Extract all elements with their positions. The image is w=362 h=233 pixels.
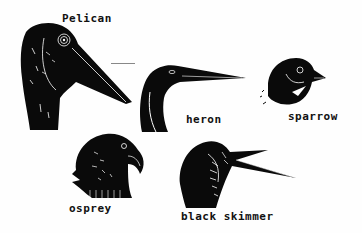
sparrow-label: sparrow	[288, 111, 338, 122]
osprey-label: osprey	[69, 203, 112, 214]
heron-label: heron	[186, 114, 222, 125]
sparrow-illustration	[262, 56, 332, 108]
linocut-bird-heads-print: Pelican heron sparrow ospr	[0, 0, 362, 233]
pelican-label: Pelican	[62, 13, 112, 24]
black-skimmer-illustration	[176, 138, 300, 208]
pelican-illustration	[14, 18, 139, 130]
osprey-illustration	[72, 130, 147, 200]
black-skimmer-label: black skimmer	[181, 211, 274, 222]
pencil-mark	[111, 63, 135, 64]
